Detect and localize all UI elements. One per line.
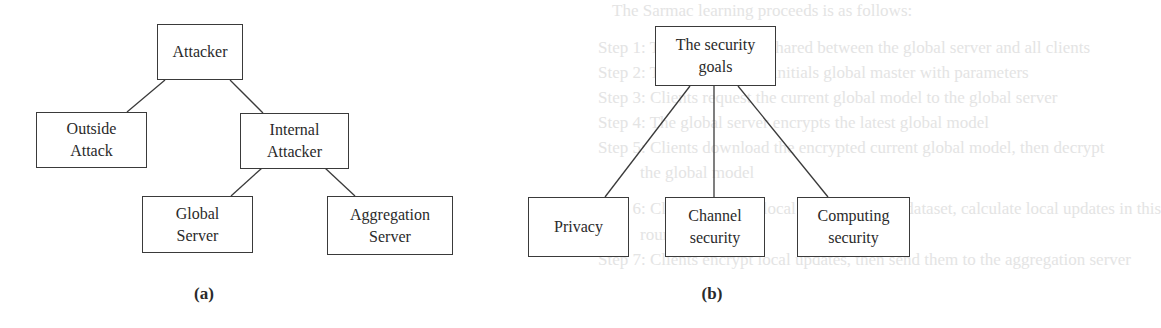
node-aggregation-server: Aggregation Server	[327, 196, 453, 255]
node-label: Attacker	[172, 41, 227, 63]
node-outside-attack: Outside Attack	[36, 112, 147, 168]
node-channel-security: Channel security	[665, 197, 765, 257]
node-label: Privacy	[554, 216, 603, 238]
node-label: Aggregation	[350, 204, 430, 226]
node-computing-security: Computing security	[797, 197, 910, 257]
node-label: Channel	[688, 205, 741, 227]
edge-goals-computing	[738, 86, 828, 197]
node-label: Outside	[67, 118, 117, 140]
node-label: Attack	[67, 140, 117, 162]
node-attacker: Attacker	[157, 24, 243, 80]
edge-attacker-internal	[230, 80, 263, 113]
node-security-goals: The security goals	[655, 26, 776, 86]
node-privacy: Privacy	[528, 197, 629, 257]
edge-internal-aggregation	[325, 168, 355, 196]
node-label: Internal	[267, 119, 322, 141]
edge-goals-privacy	[605, 86, 690, 197]
edge-attacker-outside	[127, 80, 165, 112]
node-global-server: Global Server	[142, 196, 253, 253]
node-label: Computing	[817, 205, 889, 227]
node-label: goals	[676, 56, 756, 78]
node-label: Attacker	[267, 141, 322, 163]
node-label: The security	[676, 34, 756, 56]
caption-b: (b)	[702, 284, 723, 304]
caption-a: (a)	[194, 284, 214, 304]
node-internal-attacker: Internal Attacker	[240, 113, 349, 169]
edge-internal-global	[231, 168, 262, 196]
node-label: security	[688, 227, 741, 249]
node-label: Server	[176, 225, 220, 247]
node-label: security	[817, 227, 889, 249]
node-label: Server	[350, 226, 430, 248]
node-label: Global	[176, 203, 220, 225]
